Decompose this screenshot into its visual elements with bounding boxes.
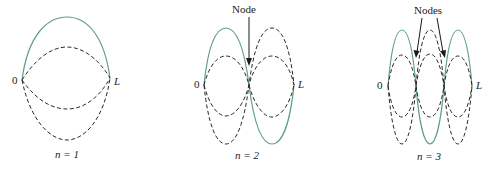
n1-mode-label: n = 1 bbox=[55, 149, 79, 160]
n3-mode-label: n = 3 bbox=[417, 151, 441, 162]
n2-length-label: L bbox=[298, 79, 304, 90]
n3-dashed-inner-curve-b bbox=[388, 54, 472, 117]
n3-dashed-inverted-outer-curve bbox=[388, 30, 472, 144]
standing-wave-diagram: 0 L n = 1 Node 0 L n = 2 Nodes 0 L n = 3 bbox=[0, 0, 494, 170]
n3-dashed-inner-curve-a bbox=[388, 55, 472, 117]
n3-length-label: L bbox=[476, 80, 482, 91]
n1-length-label: L bbox=[114, 76, 120, 87]
n3-origin-label: 0 bbox=[377, 80, 383, 91]
n1-origin-label: 0 bbox=[12, 75, 18, 86]
n3-node-arrow-right bbox=[437, 18, 446, 58]
n1-solid-mode-curve bbox=[22, 17, 110, 80]
n1-dashed-lower-inner-curve bbox=[22, 78, 110, 109]
n3-nodes-callout: Nodes bbox=[414, 5, 442, 16]
n2-mode-label: n = 2 bbox=[235, 150, 259, 161]
n2-node-callout: Node bbox=[232, 4, 256, 15]
n1-dashed-upper-curve bbox=[22, 47, 110, 80]
panel-n3-curves bbox=[388, 18, 472, 144]
n3-solid-mode-curve bbox=[388, 30, 472, 144]
panel-n2-curves bbox=[204, 17, 294, 144]
panel-n1-curves bbox=[22, 17, 110, 140]
n2-origin-label: 0 bbox=[194, 79, 200, 90]
n2-node-arrow bbox=[246, 17, 252, 66]
wave-drawing bbox=[0, 0, 494, 170]
